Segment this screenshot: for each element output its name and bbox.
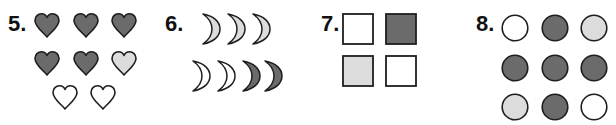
problem-number-8: 8. [476, 13, 494, 35]
circle-icon [501, 14, 529, 42]
circle-icon [580, 14, 608, 42]
heart-icon [33, 12, 61, 39]
square-icon [342, 13, 374, 45]
heart-icon [110, 50, 138, 77]
heart-icon [72, 50, 100, 77]
crescent-moon-icon [262, 59, 284, 93]
heart-icon [89, 84, 117, 111]
heart-icon [110, 12, 138, 39]
crescent-moon-icon [190, 59, 212, 93]
circle-icon [501, 93, 529, 121]
heart-icon [33, 50, 61, 77]
problem-number-6: 6. [165, 13, 183, 35]
crescent-moon-icon [200, 12, 222, 46]
circle-icon [541, 93, 569, 121]
problem-number-7: 7. [321, 13, 339, 35]
square-icon [342, 55, 374, 87]
problem-number-5: 5. [8, 13, 26, 35]
crescent-moon-icon [250, 12, 272, 46]
circle-icon [541, 14, 569, 42]
heart-icon [72, 12, 100, 39]
crescent-moon-icon [240, 59, 262, 93]
crescent-moon-icon [215, 59, 237, 93]
heart-icon [51, 84, 79, 111]
circle-icon [541, 54, 569, 82]
square-icon [385, 55, 417, 87]
circle-icon [580, 54, 608, 82]
circle-icon [580, 93, 608, 121]
crescent-moon-icon [225, 12, 247, 46]
circle-icon [501, 54, 529, 82]
square-icon [385, 13, 417, 45]
